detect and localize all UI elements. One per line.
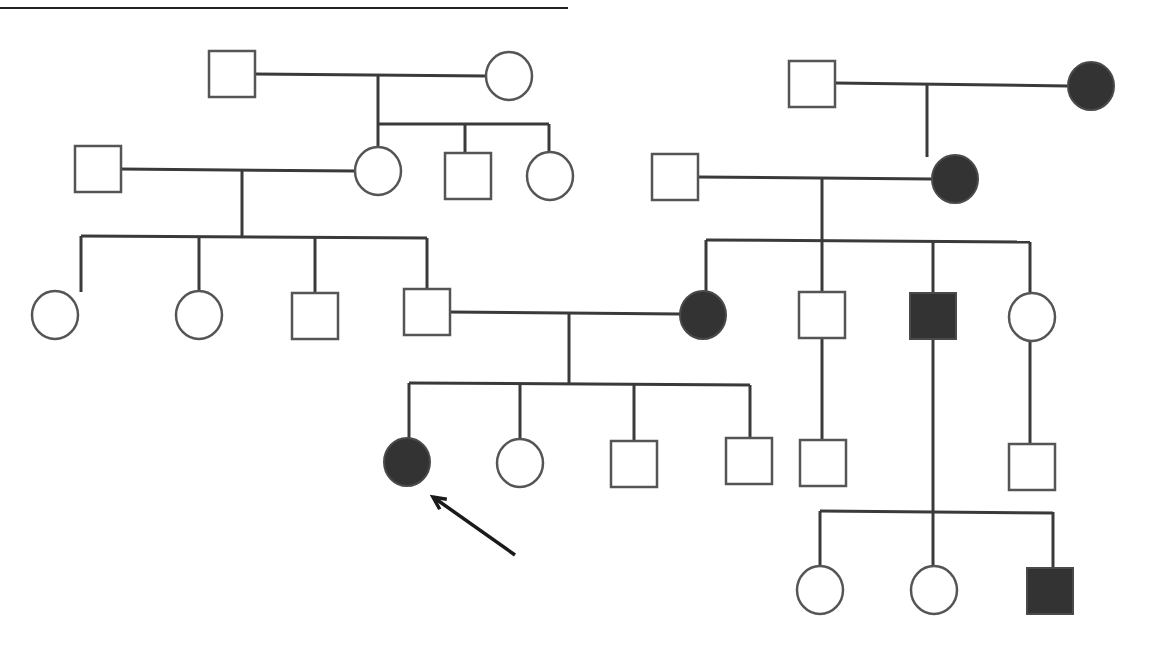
affected-female-circle-icon [384,438,430,486]
unaffected-female-circle-icon [797,566,843,614]
unaffected-male-square-icon [800,440,846,486]
unaffected-male-square-icon [652,154,698,200]
unaffected-female-circle-icon [32,291,78,339]
unaffected-male-square-icon [404,289,450,335]
unaffected-female-circle-icon [355,147,401,195]
unaffected-female-circle-icon [486,52,532,100]
affected-male-square-icon [1027,568,1073,614]
unaffected-male-square-icon [209,51,255,97]
affected-female-circle-icon [1068,62,1114,110]
unaffected-female-circle-icon [911,566,957,614]
unaffected-female-circle-icon [527,152,573,200]
unaffected-male-square-icon [445,153,491,199]
unaffected-male-square-icon [292,293,338,339]
unaffected-male-square-icon [1009,444,1055,490]
unaffected-male-square-icon [75,146,121,192]
connector-line [449,312,680,314]
unaffected-male-square-icon [789,61,835,107]
unaffected-female-circle-icon [497,439,543,487]
connector-line [706,240,1030,242]
unaffected-male-square-icon [726,438,772,484]
connector-line [120,169,356,171]
pedigree-diagram [0,0,1167,651]
unaffected-male-square-icon [799,292,845,338]
individuals [32,51,1114,614]
proband-arrow-icon [433,497,515,555]
connector-line [254,74,487,76]
unaffected-female-circle-icon [176,291,222,339]
unaffected-male-square-icon [611,441,657,487]
connector-line [834,83,1068,86]
affected-male-square-icon [910,293,956,339]
connector-line [409,383,750,385]
unaffected-female-circle-icon [1009,293,1055,341]
connector-line [81,236,427,238]
connector-line [820,511,1053,513]
affected-female-circle-icon [932,155,978,203]
connector-line [698,177,932,179]
affected-female-circle-icon [680,291,726,339]
